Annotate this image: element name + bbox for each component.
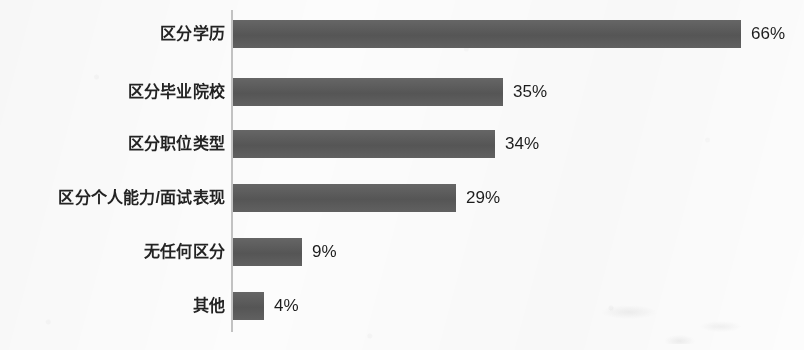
value-label: 9% bbox=[312, 238, 337, 266]
category-label: 其他 bbox=[193, 292, 225, 320]
value-label: 34% bbox=[505, 130, 539, 158]
bar-row: 其他 4% bbox=[0, 292, 804, 320]
plot-area: 区分学历 66% 区分毕业院校 35% 区分职位类型 34% 区分个人能力/面试… bbox=[0, 0, 804, 350]
category-axis-line bbox=[231, 10, 233, 332]
bar-row: 区分学历 66% bbox=[0, 20, 804, 48]
category-label: 区分个人能力/面试表现 bbox=[58, 184, 225, 212]
bar-sheen bbox=[233, 78, 503, 106]
bar-sheen bbox=[233, 20, 741, 48]
value-label: 66% bbox=[751, 20, 785, 48]
bar-row: 区分毕业院校 35% bbox=[0, 78, 804, 106]
category-label: 区分学历 bbox=[160, 20, 225, 48]
category-label: 无任何区分 bbox=[144, 238, 225, 266]
bar-sheen bbox=[233, 292, 264, 320]
bar-sheen bbox=[233, 130, 495, 158]
category-label: 区分毕业院校 bbox=[128, 78, 225, 106]
bar-row: 区分职位类型 34% bbox=[0, 130, 804, 158]
bar-row: 区分个人能力/面试表现 29% bbox=[0, 184, 804, 212]
bar-row: 无任何区分 9% bbox=[0, 238, 804, 266]
value-label: 35% bbox=[513, 78, 547, 106]
bar-sheen bbox=[233, 184, 456, 212]
bar-segment bbox=[233, 20, 741, 48]
category-label: 区分职位类型 bbox=[128, 130, 225, 158]
bar-segment bbox=[233, 238, 302, 266]
bar-segment bbox=[233, 184, 456, 212]
bar-segment bbox=[233, 292, 264, 320]
bar-chart: 区分学历 66% 区分毕业院校 35% 区分职位类型 34% 区分个人能力/面试… bbox=[0, 0, 804, 350]
bar-sheen bbox=[233, 238, 302, 266]
bar-segment bbox=[233, 130, 495, 158]
bar-segment bbox=[233, 78, 503, 106]
value-label: 4% bbox=[274, 292, 299, 320]
value-label: 29% bbox=[466, 184, 500, 212]
